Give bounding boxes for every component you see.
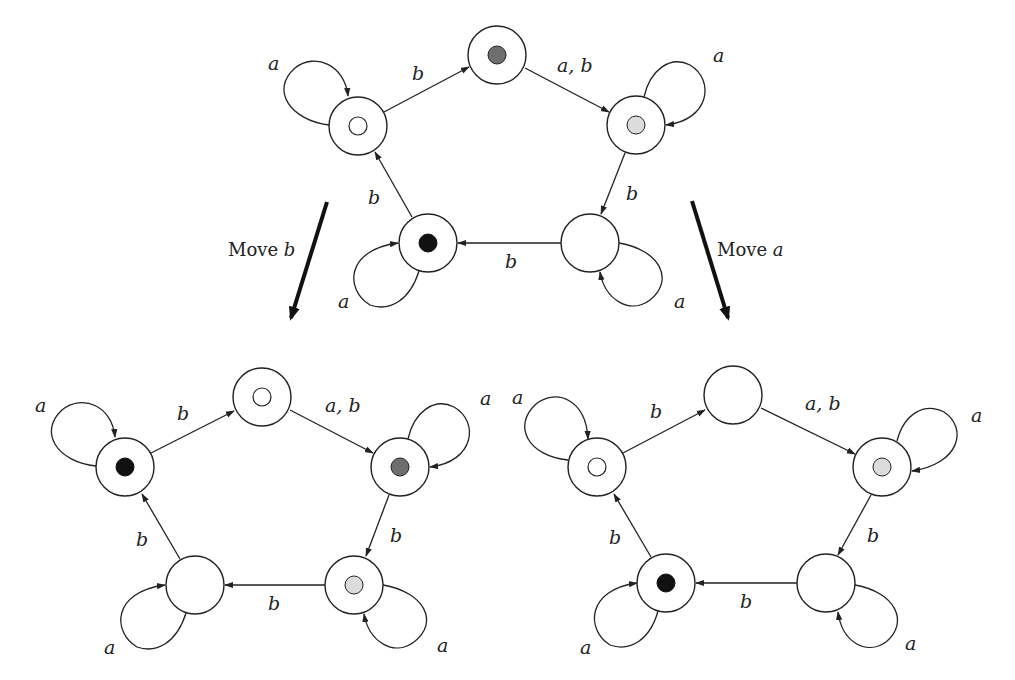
label-right-br: b bbox=[626, 182, 638, 204]
node-left bbox=[96, 438, 154, 496]
token-dark bbox=[391, 458, 409, 476]
label-loop-br: a bbox=[674, 290, 685, 312]
edge-top-to-right bbox=[290, 410, 373, 453]
label-loop-br: a bbox=[905, 632, 916, 654]
label-br-bl: b bbox=[268, 592, 280, 614]
label-right-br: b bbox=[390, 524, 402, 546]
node-top bbox=[704, 366, 762, 424]
token-light bbox=[873, 458, 891, 476]
token-black bbox=[657, 574, 675, 592]
node-bottom-left bbox=[399, 214, 457, 272]
edge-left-to-top bbox=[623, 410, 705, 453]
token-white bbox=[349, 117, 367, 135]
node-bottom-right bbox=[325, 556, 383, 614]
label-loop-left: a bbox=[268, 52, 279, 74]
token-black bbox=[419, 234, 437, 252]
label-br-bl: b bbox=[740, 590, 752, 612]
label-left-top: b bbox=[177, 402, 189, 424]
label-top-right: a, b bbox=[325, 394, 361, 416]
node-top bbox=[468, 26, 526, 84]
label-left-top: b bbox=[412, 62, 424, 84]
node-bottom-left bbox=[166, 556, 224, 614]
move-b-label: Move b bbox=[228, 239, 295, 260]
node-left bbox=[568, 438, 626, 496]
token-light bbox=[345, 576, 363, 594]
token-black bbox=[116, 458, 134, 476]
automaton-diagram: b a, b b b b a a a a Move b Move a bbox=[0, 0, 1015, 680]
edge-left-to-top bbox=[384, 67, 469, 112]
label-top-right: a, b bbox=[805, 392, 841, 414]
edge-top-to-right bbox=[761, 408, 855, 454]
label-loop-right: a bbox=[713, 44, 724, 66]
token-white bbox=[253, 388, 271, 406]
token-dark bbox=[488, 46, 506, 64]
node-right bbox=[607, 96, 665, 154]
label-loop-bl: a bbox=[104, 636, 115, 658]
label-loop-right: a bbox=[971, 404, 982, 426]
edge-bottom-left-to-left bbox=[375, 152, 412, 217]
label-loop-left: a bbox=[512, 386, 523, 408]
node-bottom-right bbox=[797, 554, 855, 612]
move-b-arrow bbox=[291, 202, 327, 318]
label-right-br: b bbox=[867, 524, 879, 546]
edge-right-to-bottom-right bbox=[366, 495, 389, 556]
move-a-transition: Move a bbox=[692, 201, 784, 318]
node-bottom-left bbox=[637, 554, 695, 612]
label-bl-left: b bbox=[609, 526, 621, 548]
graph-top: b a, b b b b a a a a bbox=[268, 26, 724, 312]
token-white bbox=[588, 458, 606, 476]
edge-right-to-bottom-right bbox=[601, 153, 625, 214]
label-bl-left: b bbox=[368, 186, 380, 208]
label-loop-bl: a bbox=[580, 636, 591, 658]
move-b-transition: Move b bbox=[228, 202, 327, 318]
label-loop-left: a bbox=[35, 394, 46, 416]
node-left bbox=[329, 97, 387, 155]
graph-bottom-left: b a, b b b b a a a a bbox=[35, 368, 491, 658]
move-a-label: Move a bbox=[717, 239, 784, 260]
node-right bbox=[853, 438, 911, 496]
label-loop-bl: a bbox=[338, 290, 349, 312]
graph-bottom-right: b a, b b b b a a a a bbox=[512, 366, 982, 658]
node-bottom-right bbox=[561, 214, 619, 272]
node-right bbox=[371, 438, 429, 496]
label-left-top: b bbox=[650, 400, 662, 422]
edge-left-to-top bbox=[151, 411, 234, 453]
label-br-bl: b bbox=[505, 250, 517, 272]
token-light bbox=[627, 116, 645, 134]
node-top bbox=[233, 368, 291, 426]
label-top-right: a, b bbox=[557, 54, 593, 76]
label-bl-left: b bbox=[136, 528, 148, 550]
label-loop-right: a bbox=[480, 387, 491, 409]
label-loop-br: a bbox=[437, 634, 448, 656]
